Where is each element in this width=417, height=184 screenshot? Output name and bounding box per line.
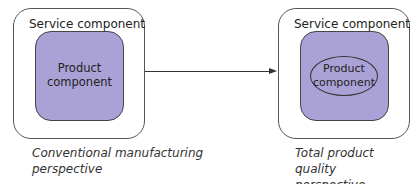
right-product-component-label: Product component [310, 62, 378, 90]
right-service-component-label: Service component [294, 17, 410, 31]
left-product-component-label: Product component [35, 61, 124, 89]
left-perspective-caption: Conventional manufacturing perspective [32, 145, 203, 177]
arrow-head-icon [269, 68, 277, 74]
right-perspective-caption: Total product quality perspective [295, 145, 417, 184]
transition-arrow-line [145, 71, 273, 72]
left-service-component-label: Service component [29, 17, 145, 31]
